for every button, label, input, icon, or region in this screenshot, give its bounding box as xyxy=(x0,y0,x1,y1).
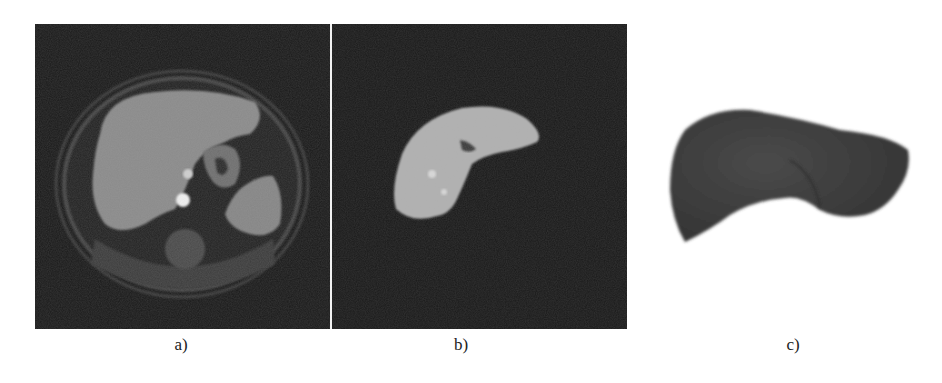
segmented-liver-image xyxy=(332,24,627,329)
panel-a-mri-slice xyxy=(35,24,330,329)
mri-axial-slice-image xyxy=(35,24,330,329)
liver-3d-surface-image xyxy=(640,90,930,260)
caption-a: a) xyxy=(174,335,187,355)
caption-c: c) xyxy=(786,335,799,355)
panel-b-segmented-liver xyxy=(332,24,627,329)
panel-c-3d-liver-render xyxy=(640,90,930,260)
caption-b: b) xyxy=(454,335,468,355)
